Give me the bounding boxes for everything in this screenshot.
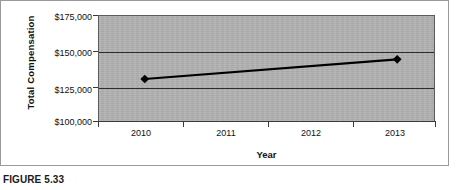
chart-frame: Total Compensation $175,000 $150,000 $12…: [0, 0, 449, 166]
x-tick-mark-start: [98, 122, 99, 127]
y-tick-label-100000: $100,000: [30, 117, 92, 127]
y-axis-tick-labels: $175,000 $150,000 $125,000 $100,000: [29, 1, 92, 167]
figure-container: Total Compensation $175,000 $150,000 $12…: [0, 0, 471, 190]
y-tick-label-150000: $150,000: [30, 48, 92, 58]
x-tick-mark-end: [435, 122, 436, 127]
x-axis-line: [98, 121, 436, 122]
y-tick-label-175000: $175,000: [30, 12, 92, 22]
x-tick-mark-2010-2011: [183, 122, 184, 127]
x-tick-label-2013: 2013: [360, 128, 430, 138]
data-point-marker-2010: [140, 75, 149, 84]
figure-caption: FIGURE 5.33: [3, 174, 64, 185]
data-point-marker-2013: [393, 55, 402, 64]
series-line-chart: [99, 16, 434, 121]
x-tick-label-2010: 2010: [106, 128, 176, 138]
x-tick-label-2011: 2011: [191, 128, 261, 138]
plot-area: [98, 15, 435, 122]
x-tick-mark-2012-2013: [353, 122, 354, 127]
series-line-total-compensation: [145, 59, 397, 79]
x-tick-label-2012: 2012: [276, 128, 346, 138]
x-axis-title: Year: [98, 149, 435, 160]
y-tick-label-125000: $125,000: [30, 85, 92, 95]
x-tick-mark-2011-2012: [268, 122, 269, 127]
